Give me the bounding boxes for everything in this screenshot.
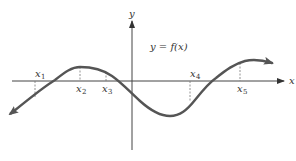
label-x5: x 5 (237, 83, 247, 96)
svg-text:2: 2 (82, 88, 86, 96)
svg-text:3: 3 (108, 88, 112, 96)
svg-text:1: 1 (41, 73, 45, 81)
function-graph: y x y = f(x) x 1 x 2 x 3 x 4 x 5 (0, 0, 296, 161)
function-curve (14, 60, 272, 116)
x-axis-label: x (289, 75, 295, 86)
label-x3: x 3 (102, 83, 112, 96)
y-axis-label: y (128, 8, 135, 19)
equation-label: y = f(x) (149, 41, 188, 52)
label-x2: x 2 (76, 83, 86, 96)
label-x4: x 4 (190, 68, 201, 81)
label-x1: x 1 (35, 68, 45, 81)
svg-text:5: 5 (243, 88, 247, 96)
svg-text:4: 4 (196, 73, 201, 81)
